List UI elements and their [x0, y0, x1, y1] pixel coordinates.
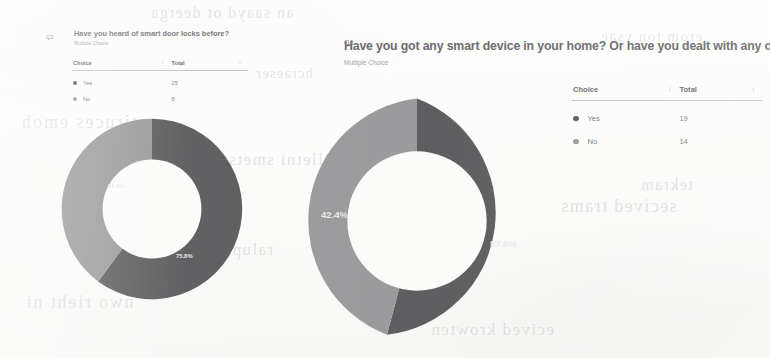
choice-label: No — [588, 137, 598, 146]
question-number: Q3 — [344, 39, 354, 46]
column-header-percent[interactable]: ↕ — [735, 84, 762, 101]
choice-cell: No — [72, 87, 171, 103]
choice-label: No — [83, 96, 90, 102]
scanned-survey-page: an saayd ot deerga erom ton ysae ytiruce… — [0, 0, 770, 358]
sort-icon[interactable]: ↕ — [161, 60, 163, 65]
table-row: No 14 — [572, 124, 762, 147]
donut-chart-q2: 75.8% 24.2% — [57, 112, 247, 306]
question-header: Q3 Have you got any smart device in your… — [344, 39, 764, 66]
percent-cell — [735, 101, 762, 125]
slice-percent-label-yes: 57.6% — [490, 238, 518, 249]
choice-label: Yes — [83, 80, 92, 86]
results-table: Choice ↕ Total ↕ Yes — [72, 59, 248, 103]
legend-swatch-yes-icon — [73, 81, 77, 85]
question-title: Have you got any smart device in your ho… — [344, 39, 764, 53]
total-cell: 19 — [678, 101, 735, 125]
column-header-total-label: Total — [172, 60, 185, 66]
percent-cell — [735, 124, 762, 147]
table-row: Yes 19 — [572, 101, 762, 125]
percent-cell — [223, 70, 248, 87]
sort-icon[interactable]: ↕ — [752, 86, 755, 93]
column-header-choice[interactable]: Choice ↕ — [572, 84, 678, 101]
question-header: Q2 Have you heard of smart door locks be… — [46, 30, 296, 46]
total-cell: 25 — [171, 70, 224, 87]
column-header-choice-label: Choice — [73, 60, 92, 66]
question-title: Have you heard of smart door locks befor… — [74, 30, 296, 39]
question-panel-q2: Q2 Have you heard of smart door locks be… — [46, 30, 296, 103]
sort-icon[interactable]: ↕ — [239, 60, 241, 65]
slice-percent-label-no: 24.2% — [108, 183, 125, 189]
table-row: Yes 25 — [72, 70, 248, 87]
results-table: Choice ↕ Total ↕ Yes — [572, 84, 762, 147]
column-header-choice-label: Choice — [573, 85, 598, 94]
column-header-total[interactable]: Total — [678, 84, 735, 101]
table-row: No 8 — [72, 87, 248, 103]
question-number: Q2 — [46, 34, 54, 40]
legend-swatch-no-icon — [73, 97, 77, 101]
total-cell: 14 — [678, 124, 735, 147]
column-header-percent[interactable]: ↕ — [223, 59, 248, 71]
slice-percent-label-no: 42.4% — [321, 209, 349, 220]
slice-percent-label-yes: 75.8% — [176, 253, 193, 259]
column-header-total-label: Total — [679, 85, 697, 94]
choice-cell: Yes — [72, 70, 171, 87]
percent-cell — [223, 87, 248, 103]
question-subtitle: Multiple Choice — [344, 59, 764, 66]
sort-icon[interactable]: ↕ — [668, 85, 671, 92]
choice-label: Yes — [588, 114, 600, 123]
donut-hole — [103, 160, 202, 259]
bleed-through-text: tekram — [640, 176, 693, 194]
table-header-row: Choice ↕ Total ↕ — [72, 59, 248, 71]
column-header-total[interactable]: Total — [171, 59, 224, 71]
donut-chart-q3: 57.6% 42.4% — [288, 88, 546, 354]
bleed-through-text: secived trams — [560, 196, 677, 217]
table-header-row: Choice ↕ Total ↕ — [572, 84, 762, 101]
legend-swatch-no-icon — [573, 139, 579, 145]
legend-swatch-yes-icon — [573, 116, 579, 122]
total-cell: 8 — [171, 87, 224, 103]
choice-cell: No — [572, 124, 678, 147]
donut-hole — [347, 151, 486, 290]
column-header-choice[interactable]: Choice ↕ — [72, 59, 171, 71]
question-subtitle: Multiple Choice — [74, 40, 296, 46]
bleed-through-text: an saayd ot deerga — [150, 4, 294, 22]
choice-cell: Yes — [572, 101, 678, 125]
